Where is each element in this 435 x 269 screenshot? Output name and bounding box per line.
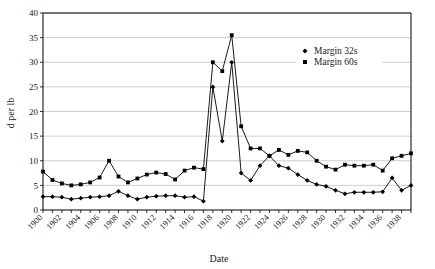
x-tick-label: 1916 — [176, 212, 195, 231]
x-tick-label: 1910 — [120, 212, 139, 231]
data-point-marker — [41, 194, 46, 199]
data-point-marker — [98, 176, 102, 180]
data-point-marker — [239, 124, 243, 128]
data-point-marker — [296, 149, 300, 153]
data-point-marker — [135, 177, 139, 181]
data-point-marker — [107, 193, 112, 198]
data-point-marker — [303, 60, 307, 64]
series-1 — [41, 60, 414, 204]
x-tick-label: 1918 — [195, 212, 214, 231]
y-axis-ticks: 0510152025303540 — [29, 8, 43, 215]
data-point-marker — [79, 182, 83, 186]
data-point-marker — [314, 182, 319, 187]
data-point-marker — [409, 151, 413, 155]
data-point-marker — [154, 171, 158, 175]
x-tick-label: 1938 — [384, 212, 403, 231]
data-point-marker — [164, 172, 168, 176]
data-point-marker — [258, 147, 262, 151]
y-tick-label: 35 — [29, 33, 39, 43]
legend-label: Margin 60s — [314, 57, 358, 67]
y-tick-label: 30 — [29, 57, 39, 67]
x-tick-label: 1934 — [346, 212, 366, 232]
x-tick-label: 1914 — [157, 212, 177, 232]
data-point-marker — [97, 194, 102, 199]
data-point-marker — [305, 150, 309, 154]
data-point-marker — [400, 154, 404, 158]
y-tick-label: 15 — [29, 131, 39, 141]
data-point-marker — [202, 167, 206, 171]
data-point-marker — [192, 166, 196, 170]
x-axis-title: Date — [210, 253, 229, 264]
x-tick-label: 1904 — [63, 212, 83, 232]
data-point-marker — [182, 195, 187, 200]
data-point-marker — [154, 194, 159, 199]
chart-container: 0510152025303540 19001902190419061908191… — [0, 0, 435, 269]
x-tick-label: 1900 — [25, 212, 44, 231]
x-axis-ticks: 1900190219041906190819101912191419161918… — [25, 210, 411, 231]
data-point-marker — [362, 164, 366, 168]
data-point-marker — [361, 190, 366, 195]
data-point-marker — [88, 195, 93, 200]
data-point-marker — [334, 168, 338, 172]
data-point-marker — [352, 164, 356, 168]
x-tick-label: 1908 — [101, 212, 120, 231]
x-tick-label: 1930 — [308, 212, 327, 231]
data-point-marker — [229, 60, 234, 65]
y-tick-label: 25 — [29, 82, 39, 92]
data-point-marker — [220, 69, 224, 73]
data-point-marker — [78, 196, 83, 201]
data-point-marker — [183, 169, 187, 173]
y-tick-label: 20 — [29, 107, 39, 117]
x-tick-label: 1926 — [271, 212, 290, 231]
data-point-marker — [41, 170, 45, 174]
x-tick-label: 1912 — [139, 212, 158, 231]
data-point-marker — [144, 195, 149, 200]
data-point-marker — [352, 190, 357, 195]
data-point-marker — [173, 193, 178, 198]
data-point-marker — [305, 178, 310, 183]
data-point-marker — [116, 189, 121, 194]
data-point-marker — [371, 190, 376, 195]
x-tick-label: 1936 — [365, 212, 384, 231]
data-point-marker — [390, 156, 394, 160]
x-tick-label: 1906 — [82, 212, 101, 231]
data-point-marker — [192, 194, 197, 199]
data-point-marker — [324, 165, 328, 169]
x-tick-label: 1924 — [252, 212, 272, 232]
data-point-marker — [163, 193, 168, 198]
data-point-marker — [230, 33, 234, 37]
data-point-marker — [50, 194, 55, 199]
data-point-marker — [249, 147, 253, 151]
data-point-marker — [107, 159, 111, 163]
x-tick-label: 1902 — [44, 212, 63, 231]
y-tick-label: 5 — [34, 181, 39, 191]
data-point-marker — [268, 154, 272, 158]
x-tick-label: 1932 — [327, 212, 346, 231]
line-chart: 0510152025303540 19001902190419061908191… — [0, 0, 435, 269]
data-point-marker — [126, 181, 130, 185]
x-tick-label: 1922 — [233, 212, 252, 231]
data-point-marker — [51, 178, 55, 182]
data-point-marker — [315, 159, 319, 163]
data-point-marker — [343, 163, 347, 167]
data-point-marker — [371, 163, 375, 167]
data-point-marker — [69, 197, 74, 202]
y-tick-label: 10 — [29, 156, 39, 166]
data-point-marker — [60, 182, 64, 186]
data-point-marker — [126, 193, 131, 198]
data-point-marker — [381, 169, 385, 173]
data-point-marker — [277, 148, 281, 152]
data-point-marker — [88, 181, 92, 185]
x-tick-label: 1928 — [290, 212, 309, 231]
data-point-marker — [343, 191, 348, 196]
chart-legend: Margin 32sMargin 60s — [296, 44, 382, 68]
legend-label: Margin 32s — [314, 46, 358, 56]
data-point-marker — [324, 184, 329, 189]
data-point-marker — [69, 183, 73, 187]
x-tick-label: 1920 — [214, 212, 233, 231]
data-point-marker — [211, 60, 215, 64]
data-point-marker — [201, 199, 206, 204]
data-point-marker — [333, 188, 338, 193]
data-point-marker — [409, 183, 414, 188]
data-point-marker — [59, 195, 64, 200]
